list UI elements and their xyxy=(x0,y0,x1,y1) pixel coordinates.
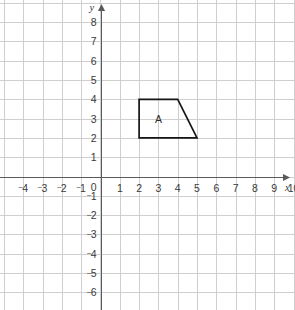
negative-sign: – xyxy=(57,182,61,191)
x-tick-label: –3 xyxy=(38,183,48,194)
x-tick-label: 9 xyxy=(271,183,277,194)
x-tick-label: –2 xyxy=(57,183,67,194)
negative-sign: – xyxy=(87,267,91,276)
grid-lines xyxy=(0,0,295,310)
y-tick-label: 3 xyxy=(91,113,97,124)
y-tick-label: –5 xyxy=(87,268,97,279)
x-tick-label: 5 xyxy=(194,183,200,194)
x-tick-label: 2 xyxy=(136,183,142,194)
plot-svg xyxy=(0,0,295,310)
y-tick-label: 1 xyxy=(91,152,97,163)
coordinate-plane-figure: A–4–3–2–11234567891087654321–1–2–3–4–5–6… xyxy=(0,0,295,310)
shape-polygon-a xyxy=(139,99,197,138)
x-tick-label: 3 xyxy=(155,183,161,194)
y-tick-label: –2 xyxy=(87,210,97,221)
plotted-shapes xyxy=(139,99,197,138)
x-tick-label: 7 xyxy=(233,183,239,194)
x-tick-label: 1 xyxy=(117,183,123,194)
shape-label-a: A xyxy=(155,113,162,124)
y-tick-label: 8 xyxy=(91,17,97,28)
negative-sign: – xyxy=(87,287,91,296)
y-tick-label: –4 xyxy=(87,248,97,259)
x-tick-label: –4 xyxy=(19,183,29,194)
negative-sign: – xyxy=(38,182,42,191)
negative-sign: – xyxy=(87,248,91,257)
y-tick-label: –3 xyxy=(87,229,97,240)
x-tick-label: 6 xyxy=(213,183,219,194)
negative-sign: – xyxy=(87,209,91,218)
y-tick-label: 7 xyxy=(91,36,97,47)
negative-sign: – xyxy=(76,182,80,191)
y-tick-label: 4 xyxy=(91,94,97,105)
y-axis-name: y xyxy=(90,3,95,14)
origin-label: 0 xyxy=(91,181,97,192)
negative-sign: – xyxy=(19,182,23,191)
y-tick-label: 6 xyxy=(91,55,97,66)
x-axis-name: x xyxy=(285,183,290,194)
y-tick-label: –6 xyxy=(87,287,97,298)
x-tick-label: –1 xyxy=(76,183,86,194)
y-tick-label: 2 xyxy=(91,133,97,144)
negative-sign: – xyxy=(87,229,91,238)
x-tick-label: 4 xyxy=(175,183,181,194)
x-tick-label: 8 xyxy=(252,183,258,194)
y-tick-label: 5 xyxy=(91,75,97,86)
